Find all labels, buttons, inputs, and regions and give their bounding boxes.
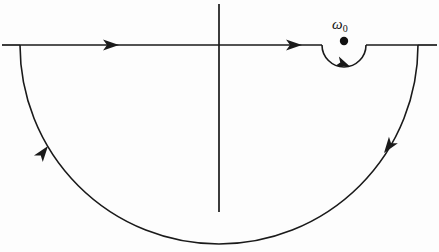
contour-diagram-figure: ω0 (0, 0, 439, 252)
pole-label-omega-zero: ω0 (332, 17, 348, 34)
pole-label-symbol: ω (332, 16, 343, 32)
pole-label-subscript: 0 (343, 23, 348, 34)
arrow-big-arc-left (34, 143, 52, 162)
simple-pole-dot (340, 37, 348, 45)
contour-diagram-canvas (0, 0, 439, 252)
arrow-big-arc-right (380, 137, 398, 156)
arrow-pole-indentation (335, 57, 352, 72)
